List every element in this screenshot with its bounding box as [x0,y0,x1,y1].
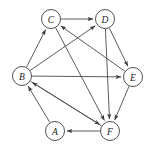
graph-node-a[interactable]: A [46,122,65,141]
node-label-e: E [129,73,136,83]
graph-edge-c-to-f [56,28,105,121]
node-label-c: C [48,15,55,25]
nodes-layer: ABCDEF [13,10,143,141]
graph-edge-e-to-f [115,86,129,120]
graph-node-b[interactable]: B [13,67,32,86]
node-label-b: B [19,72,25,82]
graph-edge-e-to-c [61,26,125,71]
graph-edge-b-to-d [30,26,95,71]
edges-layer [27,19,129,131]
graph-edge-d-to-f [105,29,109,119]
graph-node-e[interactable]: E [124,68,143,87]
graph-node-f[interactable]: F [101,122,120,141]
graph-edge-f-to-b [32,82,101,125]
node-label-d: D [101,15,109,25]
directed-graph-figure: ABCDEF [0,0,152,151]
graph-node-d[interactable]: D [96,10,115,29]
graph-node-c[interactable]: C [42,10,61,29]
node-label-a: A [51,127,58,137]
node-label-f: F [106,127,113,137]
graph-canvas: ABCDEF [0,0,152,151]
graph-edge-d-to-e [109,28,127,66]
